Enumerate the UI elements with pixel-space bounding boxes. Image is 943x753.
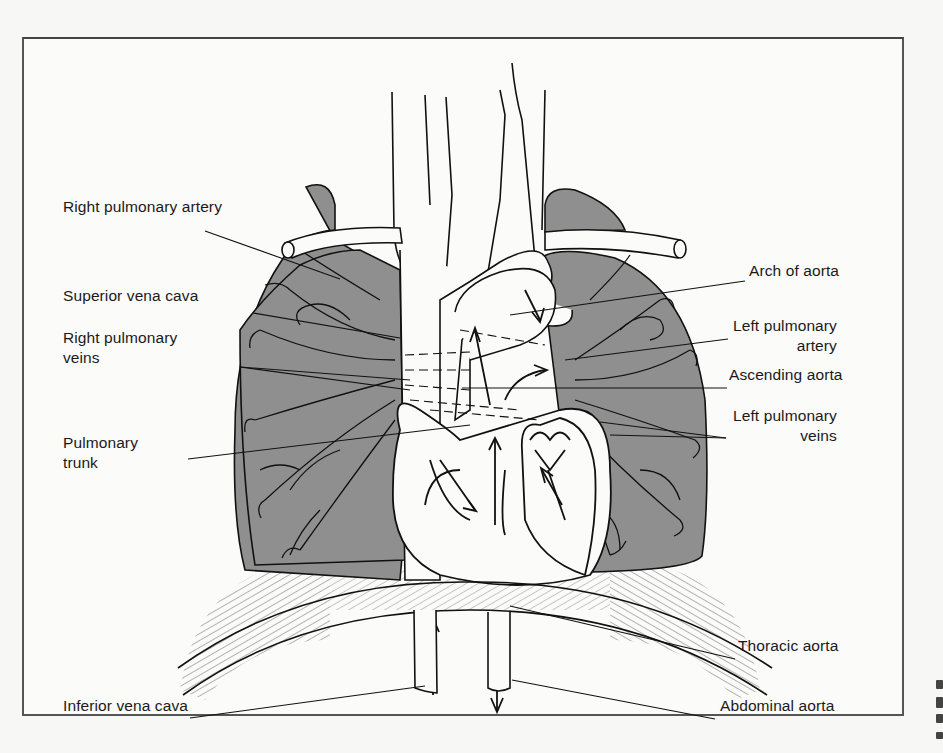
label-ascending-aorta: Ascending aorta <box>729 365 843 385</box>
cropped-text-fragment <box>936 714 943 723</box>
label-text: Arch of aorta <box>749 262 839 279</box>
label-text-line2: trunk <box>63 453 138 473</box>
label-left-pulmonary-veins: Left pulmonaryveins <box>733 406 837 446</box>
label-right-pulmonary-veins: Right pulmonaryveins <box>63 328 177 368</box>
label-abdominal-aorta: Abdominal aorta <box>720 696 834 716</box>
cropped-text-fragment <box>936 697 943 708</box>
label-superior-vena-cava: Superior vena cava <box>63 286 198 306</box>
label-text: Inferior vena cava <box>63 697 188 714</box>
leader-line-abdominal-aorta <box>512 680 715 719</box>
label-text: Left pulmonary <box>733 316 837 336</box>
cropped-text-fragment <box>936 732 943 739</box>
label-text: Right pulmonary <box>63 328 177 348</box>
label-text: Ascending aorta <box>729 366 843 383</box>
label-arch-of-aorta: Arch of aorta <box>749 261 839 281</box>
label-text: Pulmonary <box>63 433 138 453</box>
label-text: Thoracic aorta <box>738 637 838 654</box>
label-pulmonary-trunk: Pulmonarytrunk <box>63 433 138 473</box>
label-thoracic-aorta: Thoracic aorta <box>738 636 838 656</box>
label-text-line2: veins <box>63 348 177 368</box>
lower-vessels <box>414 610 510 693</box>
label-inferior-vena-cava: Inferior vena cava <box>63 696 188 716</box>
label-text: Abdominal aorta <box>720 697 834 714</box>
leader-line-inferior-vena-cava <box>190 686 425 718</box>
label-left-pulmonary-artery: Left pulmonaryartery <box>733 316 837 356</box>
label-text: Superior vena cava <box>63 287 198 304</box>
label-text-line2: veins <box>733 426 837 446</box>
label-text: Right pulmonary artery <box>63 198 222 215</box>
cropped-text-fragment <box>936 680 943 689</box>
label-text: Left pulmonary <box>733 406 837 426</box>
label-right-pulmonary-artery: Right pulmonary artery <box>63 197 222 217</box>
label-text-line2: artery <box>733 336 837 356</box>
